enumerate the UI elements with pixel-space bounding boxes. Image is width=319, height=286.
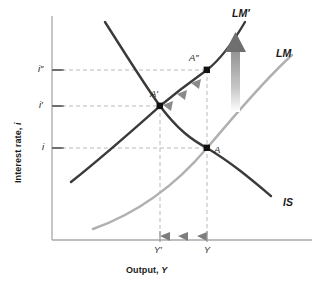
y-tick-label-i: i [42,142,44,152]
x-axis-title-static: Output, [126,265,161,275]
y-tick-label-i-double-prime: i″ [38,64,43,74]
y-axis-title-var: i [13,122,23,125]
point-label-a-double-prime: A″ [189,53,199,63]
plot-area [0,0,319,286]
y-axis-title-static: Interest rate, [13,125,23,183]
curve-label-is: IS [283,197,293,208]
isl-lm-diagram: i″ i′ i Y′ Y LM′ LM IS A″ A′ A Output, Y… [0,0,319,286]
x-tick-label-y: Y [204,246,210,255]
upward-shift-arrow [225,32,246,112]
marker-point-a [204,145,210,151]
curve-label-lm: LM [276,48,291,59]
marker-point-a-double-prime [204,67,210,73]
point-label-a-prime: A′ [150,89,158,99]
x-axis-title-var: Y [161,265,167,275]
point-label-a: A [214,145,220,155]
x-axis-title: Output, Y [126,266,167,275]
y-axis-title: Interest rate, i [14,122,23,183]
marker-point-a-prime [157,103,163,109]
curve-label-lm-prime: LM′ [232,8,250,19]
x-tick-label-y-prime: Y′ [154,246,162,255]
y-tick-label-i-prime: i′ [39,100,43,110]
